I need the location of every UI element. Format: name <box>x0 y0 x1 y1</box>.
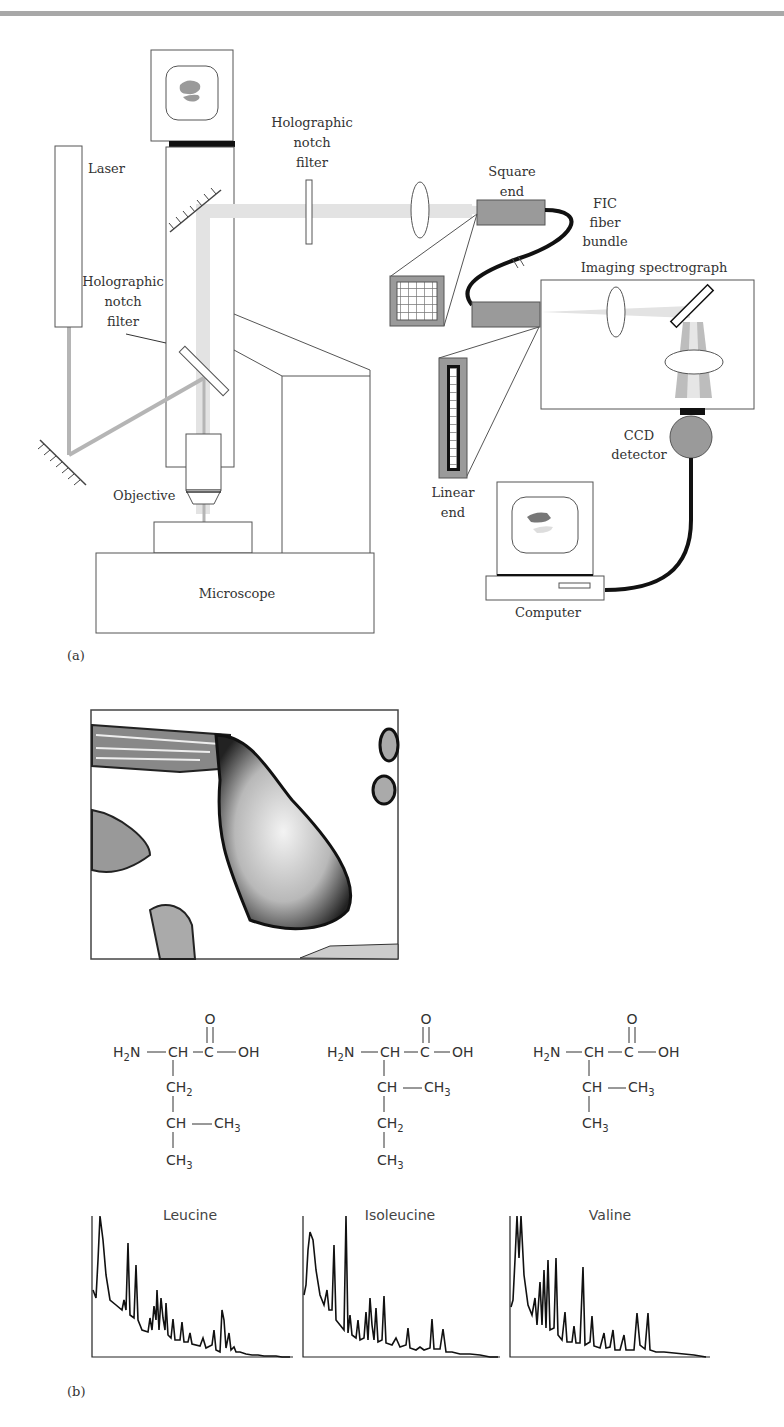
svg-text:H2N: H2N <box>327 1044 354 1063</box>
svg-text:CH3: CH3 <box>628 1079 655 1098</box>
svg-text:CH: CH <box>582 1079 602 1095</box>
label-microscope: Microscope <box>199 586 276 601</box>
imaging-spectrograph <box>541 280 754 415</box>
svg-text:O: O <box>204 1011 215 1027</box>
svg-text:CH: CH <box>377 1079 397 1095</box>
svg-text:CH3: CH3 <box>214 1115 241 1134</box>
notch-filter-top <box>306 180 312 244</box>
svg-text:C: C <box>204 1044 214 1060</box>
structure-isoleucine: O H2N CH C OH CH CH3 CH2 CH3 <box>327 1011 474 1171</box>
svg-text:OH: OH <box>238 1044 260 1060</box>
panel-a-setup-diagram: Laser Holographic notch filter Holograph… <box>38 50 754 663</box>
label-notch-filter-top: notch <box>293 135 331 150</box>
microscope-frame <box>234 314 370 553</box>
label-fiber-bundle: bundle <box>582 234 628 249</box>
svg-text:OH: OH <box>452 1044 474 1060</box>
label-fiber-bundle: FIC <box>593 196 617 211</box>
structure-valine: O H2N CH C OH CH CH3 CH3 <box>533 1011 680 1134</box>
objective-lens-icon <box>186 434 221 504</box>
svg-text:CH3: CH3 <box>424 1079 451 1098</box>
fiber-square-end <box>477 200 545 225</box>
panel-b: O H2N CH C OH CH2 CH CH3 CH3 O H2N CH C <box>67 710 710 1399</box>
label-linear-end: Linear <box>432 485 476 500</box>
svg-text:C: C <box>420 1044 430 1060</box>
svg-text:H2N: H2N <box>533 1044 560 1063</box>
pointer-arrow <box>126 334 166 343</box>
computer-icon <box>486 482 604 600</box>
label-square-end: end <box>500 184 524 199</box>
label-spectrograph: Imaging spectrograph <box>581 260 728 275</box>
mirror-bottom-left-icon <box>38 440 86 485</box>
laser-box <box>55 146 82 327</box>
spectrum-valine: Valine <box>510 1207 710 1357</box>
label-notch-filter-side: Holographic <box>82 274 164 289</box>
panel-label-b: (b) <box>67 1384 85 1399</box>
ccd-detector <box>670 416 712 458</box>
label-linear-end: end <box>441 505 465 520</box>
linear-end-inset <box>439 327 539 478</box>
camera-monitor <box>151 50 235 147</box>
svg-text:Leucine: Leucine <box>163 1207 217 1223</box>
svg-text:CH2: CH2 <box>166 1079 193 1098</box>
spectrum-isoleucine: Isoleucine <box>303 1207 500 1357</box>
svg-text:O: O <box>420 1011 431 1027</box>
label-laser: Laser <box>88 161 126 176</box>
label-notch-filter-side: filter <box>107 314 140 329</box>
panel-label-a: (a) <box>67 648 85 663</box>
label-notch-filter-top: filter <box>296 155 329 170</box>
svg-text:CH3: CH3 <box>377 1152 404 1171</box>
svg-text:CH2: CH2 <box>377 1115 404 1134</box>
micrograph-image <box>91 710 398 959</box>
spectrum-leucine: Leucine <box>92 1207 293 1357</box>
label-notch-filter-side: notch <box>104 294 142 309</box>
label-objective: Objective <box>113 488 176 503</box>
laser-beam-diagonal <box>69 378 204 455</box>
svg-text:CH: CH <box>168 1044 188 1060</box>
svg-text:CH3: CH3 <box>582 1115 609 1134</box>
label-ccd: detector <box>611 447 667 462</box>
structure-leucine: O H2N CH C OH CH2 CH CH3 CH3 <box>113 1011 260 1171</box>
sample-stage <box>154 522 252 553</box>
svg-text:CH: CH <box>166 1115 186 1131</box>
focusing-lens <box>411 182 429 238</box>
label-computer: Computer <box>515 605 582 620</box>
square-end-inset <box>390 214 477 326</box>
svg-text:CH: CH <box>584 1044 604 1060</box>
label-notch-filter-top: Holographic <box>271 115 353 130</box>
fiber-linear-end <box>472 302 540 327</box>
label-fiber-bundle: fiber <box>590 215 622 230</box>
svg-text:CH: CH <box>380 1044 400 1060</box>
figure-canvas: Laser Holographic notch filter Holograph… <box>0 0 784 1427</box>
detector-cable <box>605 458 691 590</box>
svg-text:CH3: CH3 <box>166 1152 193 1171</box>
label-ccd: CCD <box>624 428 654 443</box>
label-square-end: Square <box>488 164 536 179</box>
svg-text:Isoleucine: Isoleucine <box>365 1207 435 1223</box>
svg-text:Valine: Valine <box>589 1207 631 1223</box>
svg-text:H2N: H2N <box>113 1044 140 1063</box>
svg-text:OH: OH <box>658 1044 680 1060</box>
svg-text:O: O <box>626 1011 637 1027</box>
svg-text:C: C <box>624 1044 634 1060</box>
